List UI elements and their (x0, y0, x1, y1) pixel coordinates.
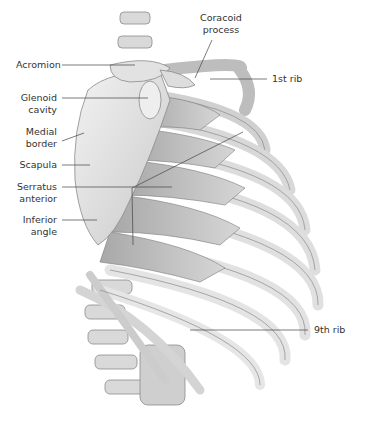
label-line: border (26, 138, 57, 150)
label-line: anterior (17, 193, 57, 205)
label-line: Coracoid (200, 12, 242, 24)
label-line: process (200, 24, 242, 36)
label-line: Serratus (17, 181, 57, 193)
label-medial-border: Medial border (26, 126, 57, 150)
label-line: cavity (21, 104, 57, 116)
label-coracoid-process: Coracoid process (200, 12, 242, 36)
label-glenoid-cavity: Glenoid cavity (21, 92, 57, 116)
label-scapula: Scapula (19, 159, 57, 171)
label-first-rib: 1st rib (272, 73, 302, 85)
label-line: angle (23, 226, 57, 238)
label-line: Inferior (23, 214, 57, 226)
label-ninth-rib: 9th rib (314, 324, 345, 336)
label-acromion: Acromion (16, 59, 61, 71)
label-serratus-anterior: Serratus anterior (17, 181, 57, 205)
label-line: Medial (26, 126, 57, 138)
label-line: Glenoid (21, 92, 57, 104)
label-inferior-angle: Inferior angle (23, 214, 57, 238)
